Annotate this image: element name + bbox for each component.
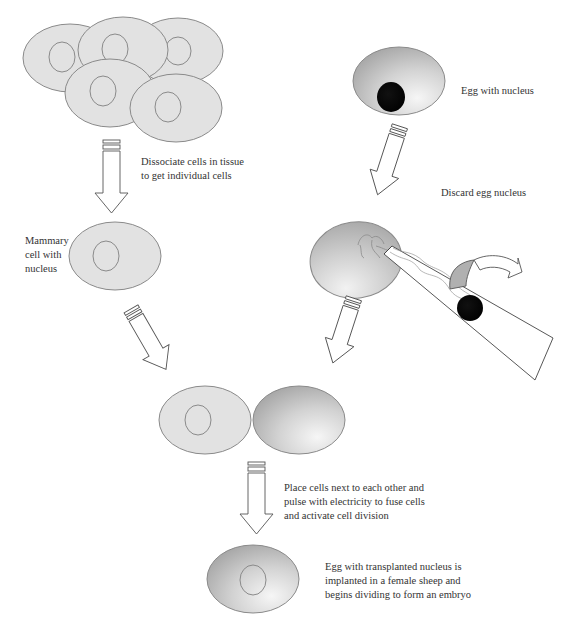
enucleated-egg xyxy=(253,386,345,454)
removed-nucleus xyxy=(457,295,483,321)
diagonal-arrow-icon xyxy=(118,301,179,377)
label-egg-with-nucleus: Egg with nucleus xyxy=(461,84,534,98)
fusion-pair xyxy=(159,386,345,454)
curved-discard-arrow-icon xyxy=(450,256,522,289)
diagonal-arrow-icon xyxy=(363,122,414,200)
down-arrow-icon xyxy=(240,462,273,534)
label-discard-nucleus: Discard egg nucleus xyxy=(441,186,526,200)
label-dissociate: Dissociate cells in tissue to get indivi… xyxy=(141,155,244,183)
label-implant-embryo: Egg with transplanted nucleus is implant… xyxy=(325,560,471,602)
diagonal-arrow-icon xyxy=(319,294,369,368)
egg-cell xyxy=(353,47,445,115)
label-fuse-cells: Place cells next to each other and pulse… xyxy=(284,481,425,523)
egg-nucleus xyxy=(377,82,405,112)
tissue-cell xyxy=(130,74,222,142)
tissue-cluster xyxy=(23,17,223,142)
mammary-cell xyxy=(69,222,161,290)
label-mammary-cell: Mammary cell with nucleus xyxy=(25,234,69,276)
embryo-egg xyxy=(207,545,299,613)
down-arrow-icon xyxy=(95,140,128,213)
mammary-cell xyxy=(159,386,251,454)
